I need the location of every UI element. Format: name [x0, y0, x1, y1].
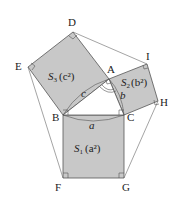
diagram-canvas: D E A I H B C F G a c b S3(c²) S2(b²) S1… — [0, 0, 186, 201]
label-I: I — [146, 50, 150, 62]
label-side-c: c — [81, 87, 86, 99]
label-S2: S2(b²) — [121, 76, 147, 90]
label-B: B — [52, 111, 59, 123]
label-E: E — [15, 60, 22, 72]
pythagorean-diagram: D E A I H B C F G a c b S3(c²) S2(b²) S1… — [0, 0, 186, 201]
label-side-b: b — [120, 89, 126, 101]
label-H: H — [160, 96, 168, 108]
label-A: A — [107, 63, 115, 75]
label-C: C — [127, 111, 134, 123]
label-S1: S1(a²) — [74, 142, 101, 156]
label-D: D — [68, 16, 76, 28]
label-F: F — [55, 181, 61, 193]
label-S3: S3(c²) — [48, 70, 75, 84]
label-G: G — [122, 181, 130, 193]
label-side-a: a — [89, 119, 95, 131]
